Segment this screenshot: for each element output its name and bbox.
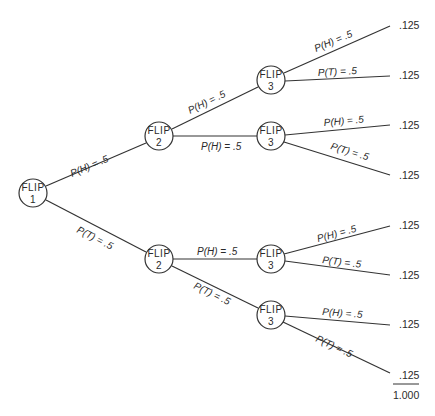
node-flip-2-bottom: FLIP 2 [145, 245, 173, 273]
node-flip-3-c: FLIP 3 [257, 245, 285, 273]
outcome-value: .125 [399, 169, 420, 181]
svg-text:FLIP: FLIP [259, 304, 282, 315]
outcome-value: .125 [399, 318, 420, 330]
edge-label: P(H) = .5 [201, 141, 242, 152]
svg-text:3: 3 [268, 137, 274, 148]
svg-text:3: 3 [268, 316, 274, 327]
node-flip-3-a: FLIP 3 [257, 66, 285, 94]
outcome-value: .125 [399, 219, 420, 231]
edge-label: P(T) = .5 [329, 140, 370, 162]
edge-label: P(H) = .5 [68, 153, 110, 179]
edge-label: P(T) = .5 [192, 280, 232, 307]
edge-label: P(H) = .5 [322, 306, 363, 320]
edge-label: P(T) = .5 [318, 65, 358, 78]
node-flip-1: FLIP 1 [19, 179, 47, 207]
edge-label: P(H) = .5 [323, 113, 365, 128]
svg-text:FLIP: FLIP [259, 69, 282, 80]
edge-label: P(H) = .5 [312, 28, 354, 54]
outcome-value: .125 [399, 269, 420, 281]
svg-text:FLIP: FLIP [147, 125, 170, 136]
outcome-value: .125 [399, 19, 420, 31]
edge-f2b-f3d [172, 266, 258, 308]
node-flip-3-d: FLIP 3 [257, 301, 285, 329]
edge-label: P(H) = .5 [316, 223, 358, 244]
svg-text:2: 2 [156, 260, 162, 271]
edge-label: P(T) = .5 [75, 224, 115, 252]
outcome-value: .125 [399, 69, 420, 81]
svg-text:2: 2 [156, 137, 162, 148]
node-flip-2-top: FLIP 2 [145, 122, 173, 150]
outcome-value: .125 [399, 369, 420, 381]
svg-text:3: 3 [268, 81, 274, 92]
edge-label: P(T) = .5 [314, 333, 355, 360]
edge-label: P(T) = .5 [322, 254, 363, 270]
probability-tree-diagram: FLIP 1 FLIP 2 FLIP 2 FLIP 3 FLIP 3 FLIP … [0, 0, 435, 416]
svg-text:3: 3 [268, 260, 274, 271]
svg-text:FLIP: FLIP [21, 182, 44, 193]
svg-text:1: 1 [30, 194, 36, 205]
svg-text:FLIP: FLIP [147, 248, 170, 259]
edge-label: P(H) = .5 [197, 246, 238, 257]
svg-text:FLIP: FLIP [259, 248, 282, 259]
node-flip-3-b: FLIP 3 [257, 122, 285, 150]
svg-text:FLIP: FLIP [259, 125, 282, 136]
total-value: 1.000 [393, 389, 419, 401]
outcome-value: .125 [399, 119, 420, 131]
